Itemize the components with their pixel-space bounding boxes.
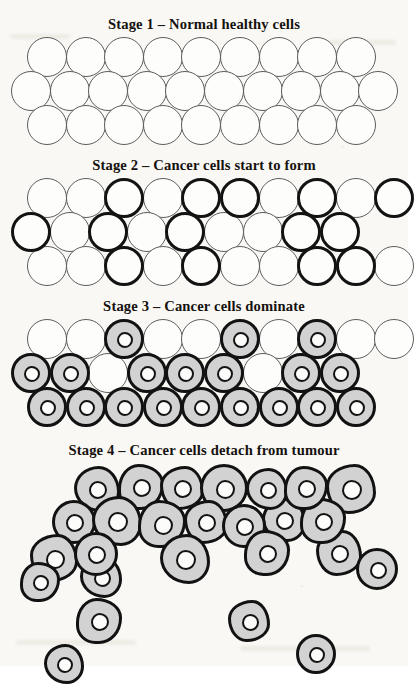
cell-nucleus [315, 513, 333, 531]
cell-nucleus [260, 482, 277, 499]
stage-2-cells [0, 178, 408, 296]
normal-cell [143, 105, 183, 145]
cell-nucleus [198, 514, 216, 532]
cancer-cell [259, 387, 299, 427]
cancer-cell [356, 548, 398, 590]
normal-cell [27, 246, 67, 286]
cell-nucleus [333, 366, 349, 382]
cell-nucleus [63, 366, 79, 382]
cell-nucleus [370, 562, 387, 579]
cell-nucleus [154, 516, 173, 535]
cell-nucleus [156, 400, 172, 416]
normal-cell [220, 105, 260, 145]
stage-3-title: Stage 3 – Cancer cells dominate [0, 299, 408, 314]
cancer-cell [284, 466, 328, 510]
cell-nucleus [294, 366, 310, 382]
cancer-cell [246, 468, 288, 510]
cancer-cell [220, 178, 260, 218]
cancer-cell [143, 387, 183, 427]
cell-nucleus [108, 512, 128, 532]
cell-nucleus [117, 400, 133, 416]
cell-nucleus [298, 480, 316, 498]
cancer-cell [11, 212, 51, 252]
detached-cancer-cell [228, 600, 270, 642]
stage-2-section: Stage 2 – Cancer cells start to form [0, 158, 408, 296]
cell-nucleus [194, 400, 210, 416]
cancer-cell [27, 387, 67, 427]
cell-nucleus [33, 575, 49, 591]
normal-cell [104, 105, 144, 145]
cancer-cell [104, 387, 144, 427]
cancer-cell [374, 178, 414, 218]
normal-cell [66, 246, 106, 286]
cell-nucleus [233, 332, 249, 348]
cancer-cell [297, 246, 337, 286]
cell-nucleus [233, 400, 249, 416]
cancer-cell [297, 387, 337, 427]
normal-cell [66, 105, 106, 145]
stage-4-title: Stage 4 – Cancer cells detach from tumou… [0, 443, 408, 458]
detached-cancer-cell [76, 598, 122, 644]
normal-cell [220, 246, 260, 286]
cell-nucleus [242, 614, 259, 631]
normal-cell [374, 319, 414, 359]
cancer-cell [181, 246, 221, 286]
stage-4-section: Stage 4 – Cancer cells detach from tumou… [0, 443, 408, 674]
detached-cancer-cell [296, 634, 336, 674]
cell-nucleus [88, 546, 106, 564]
cell-nucleus [349, 400, 365, 416]
cell-nucleus [40, 400, 56, 416]
cancer-cell [66, 387, 106, 427]
cell-nucleus [117, 332, 133, 348]
cell-nucleus [178, 366, 194, 382]
cell-nucleus [310, 332, 326, 348]
cell-nucleus [57, 657, 73, 673]
cell-nucleus [276, 512, 294, 530]
normal-cell [143, 246, 183, 286]
stage-3-section: Stage 3 – Cancer cells dominate [0, 299, 408, 437]
cell-nucleus [309, 647, 325, 663]
normal-cell [297, 105, 337, 145]
cell-nucleus [216, 480, 235, 499]
cell-nucleus [66, 514, 84, 532]
cell-nucleus [259, 545, 277, 563]
cell-nucleus [79, 400, 95, 416]
detached-cancer-cell [44, 644, 84, 684]
cell-nucleus [342, 480, 362, 500]
cancer-cell [336, 387, 376, 427]
cell-nucleus [272, 400, 288, 416]
normal-cell [259, 246, 299, 286]
normal-cell [374, 246, 414, 286]
cell-nucleus [133, 479, 151, 497]
stage-4-cells [0, 464, 408, 674]
normal-cell [358, 71, 398, 111]
normal-cell [259, 105, 299, 145]
stage-3-cells [0, 319, 408, 437]
cell-nucleus [176, 550, 196, 570]
cancer-cell [104, 246, 144, 286]
cancer-cell [181, 387, 221, 427]
cell-nucleus [140, 366, 156, 382]
cancer-cell [220, 387, 260, 427]
cell-nucleus [91, 613, 109, 631]
normal-cell [181, 105, 221, 145]
cell-nucleus [310, 400, 326, 416]
stage-1-cells [0, 37, 408, 155]
cell-nucleus [89, 481, 107, 499]
cancer-cell [244, 530, 290, 576]
cancer-cell [336, 246, 376, 286]
cancer-cell [104, 319, 144, 359]
cancer-cell [74, 532, 118, 576]
cell-nucleus [174, 480, 192, 498]
cancer-cell [160, 534, 210, 584]
cell-nucleus [24, 366, 40, 382]
cell-nucleus [236, 518, 254, 536]
normal-cell [27, 105, 67, 145]
cell-nucleus [217, 366, 233, 382]
stage-2-title: Stage 2 – Cancer cells start to form [0, 158, 408, 173]
stage-1-title: Stage 1 – Normal healthy cells [0, 17, 408, 32]
normal-cell [336, 105, 376, 145]
cancer-cell [20, 562, 60, 602]
cell-nucleus [331, 545, 349, 563]
